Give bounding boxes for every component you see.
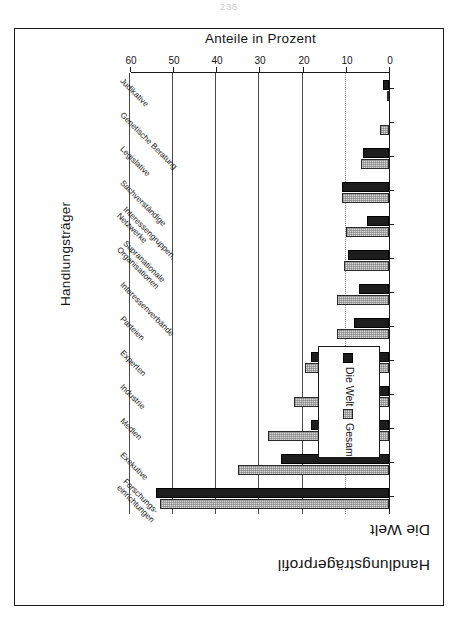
bar-die-welt <box>367 216 389 226</box>
chart-title-line-1: Handlungsträgerprofil <box>278 557 430 575</box>
bar-gesamt <box>344 261 389 271</box>
bar-gesamt <box>160 499 389 509</box>
legend-swatch-gesamt <box>343 409 353 419</box>
chart-figure: Handlungsträgerprofil Die Welt 010203040… <box>14 28 444 606</box>
bar-group <box>131 77 389 101</box>
bar-gesamt <box>337 295 389 305</box>
value-axis-title: Anteile in Prozent <box>131 31 390 46</box>
legend-label: Die Welt <box>344 367 356 406</box>
page-number: 236 <box>0 2 458 12</box>
bar-die-welt <box>342 182 389 192</box>
bar-gesamt <box>342 193 389 203</box>
bar-gesamt <box>361 159 389 169</box>
category-tick <box>389 394 394 395</box>
bar-group <box>131 111 389 135</box>
chart-title-line-2: Die Welt <box>278 521 430 539</box>
bar-gesamt <box>346 227 389 237</box>
category-tick <box>389 224 394 225</box>
category-tick <box>389 156 394 157</box>
legend-item: Gesamt <box>317 401 379 457</box>
category-tick <box>389 258 394 259</box>
bar-die-welt <box>156 488 389 498</box>
bar-group <box>131 179 389 203</box>
category-tick <box>389 292 394 293</box>
bar-die-welt <box>359 284 389 294</box>
category-tick <box>389 326 394 327</box>
bar-die-welt <box>363 148 389 158</box>
chart-title: Handlungsträgerprofil Die Welt <box>278 504 430 592</box>
category-axis-title: Handlungsträger <box>58 202 73 306</box>
legend-item: Die Welt <box>317 345 379 401</box>
bar-group <box>131 281 389 305</box>
bar-gesamt <box>337 329 389 339</box>
legend-label: Gesamt <box>344 423 356 460</box>
bar-group <box>131 213 389 237</box>
category-tick <box>389 428 394 429</box>
bar-group <box>131 485 389 509</box>
category-tick <box>389 360 394 361</box>
bar-die-welt <box>354 318 389 328</box>
legend-swatch-die-welt <box>343 353 353 363</box>
chart-legend: GesamtDie Welt <box>318 346 380 458</box>
bar-gesamt <box>238 465 389 475</box>
category-tick <box>389 190 394 191</box>
category-tick <box>389 462 394 463</box>
bar-gesamt <box>387 91 389 101</box>
category-tick <box>389 88 394 89</box>
bar-gesamt <box>380 125 389 135</box>
category-tick <box>389 496 394 497</box>
bar-die-welt <box>348 250 389 260</box>
category-tick <box>389 122 394 123</box>
